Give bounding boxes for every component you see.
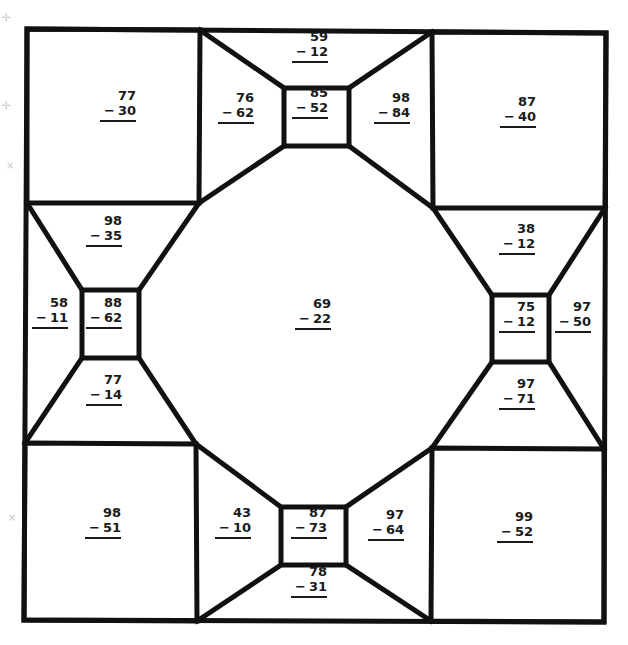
minuend: 59	[292, 29, 328, 44]
subtraction-problem-bottom-outer-trap: 78−31	[279, 564, 339, 598]
minus-sign: −	[90, 228, 101, 243]
minuend: 98	[85, 505, 121, 520]
left-bowtie-line	[139, 203, 199, 290]
subtrahend-value: 12	[310, 44, 328, 59]
left-bowtie-line	[139, 358, 196, 444]
margin-mark: ×	[6, 160, 14, 171]
minus-sign: −	[36, 310, 47, 325]
subtrahend: −52	[292, 100, 328, 119]
minuend: 97	[555, 299, 591, 314]
minus-sign: −	[501, 524, 512, 539]
subtrahend: −35	[86, 228, 122, 247]
minus-sign: −	[222, 105, 233, 120]
subtrahend: −62	[218, 105, 254, 124]
minus-sign: −	[503, 314, 514, 329]
subtrahend: −10	[215, 520, 251, 539]
subtrahend: −84	[374, 105, 410, 124]
minus-sign: −	[378, 105, 389, 120]
subtrahend-value: 62	[104, 310, 122, 325]
minus-sign: −	[372, 522, 383, 537]
subtraction-problem-left-center-box: 88−62	[74, 295, 134, 329]
subtraction-problem-left-top-trap: 98−35	[74, 213, 134, 247]
minus-sign: −	[296, 44, 307, 59]
bottom-bowtie-line	[196, 444, 281, 507]
minus-sign: −	[89, 520, 100, 535]
top-bowtie-line	[200, 30, 284, 88]
subtrahend-value: 84	[392, 105, 410, 120]
minus-sign: −	[299, 311, 310, 326]
margin-mark: ✢	[2, 12, 10, 23]
subtrahend-value: 52	[515, 524, 533, 539]
minuend: 78	[291, 564, 327, 579]
subtrahend-value: 30	[118, 103, 136, 118]
subtrahend-value: 62	[236, 105, 254, 120]
subtrahend-value: 31	[309, 579, 327, 594]
minus-sign: −	[503, 236, 514, 251]
minus-sign: −	[504, 109, 515, 124]
subtrahend: −40	[500, 109, 536, 128]
subtrahend: −62	[86, 310, 122, 329]
subtrahend-value: 40	[518, 109, 536, 124]
right-bowtie-line	[432, 362, 492, 448]
minus-sign: −	[90, 387, 101, 402]
bottom-bowtie-line	[346, 448, 432, 507]
right-bowtie-line	[549, 208, 605, 295]
margin-mark: ✢	[2, 100, 10, 111]
minuend: 98	[374, 90, 410, 105]
minuend: 87	[291, 505, 327, 520]
minus-sign: −	[295, 520, 306, 535]
subtrahend: −12	[499, 236, 535, 255]
subtraction-problem-bottom-left-trap: 43−10	[203, 505, 263, 539]
subtrahend: −14	[86, 387, 122, 406]
subtrahend: −50	[555, 314, 591, 333]
subtrahend-value: 12	[517, 314, 535, 329]
minuend: 85	[292, 85, 328, 100]
subtrahend: −30	[100, 103, 136, 122]
minuend: 58	[32, 295, 68, 310]
subtraction-problem-left-outer-trap: 58−11	[20, 295, 80, 329]
subtraction-problem-center-octagon: 69−22	[283, 296, 343, 330]
minuend: 69	[295, 296, 331, 311]
subtraction-problem-bottom-right-trap: 97−64	[356, 507, 416, 541]
minuend: 77	[86, 372, 122, 387]
minus-sign: −	[104, 103, 115, 118]
subtraction-problem-top-right-trap: 98−84	[362, 90, 422, 124]
subtrahend-value: 73	[309, 520, 327, 535]
subtrahend: −22	[295, 311, 331, 330]
minuend: 43	[215, 505, 251, 520]
top-bowtie-line	[349, 146, 433, 208]
right-bowtie-line	[433, 208, 492, 295]
subtrahend-value: 10	[233, 520, 251, 535]
subtraction-problem-bottom-center-box: 87−73	[279, 505, 339, 539]
subtrahend-value: 11	[50, 310, 68, 325]
minuend: 38	[499, 221, 535, 236]
minus-sign: −	[559, 314, 570, 329]
subtraction-problem-right-bottom-trap: 97−71	[487, 376, 547, 410]
subtrahend: −52	[497, 524, 533, 543]
margin-mark: ×	[8, 512, 16, 523]
minus-sign: −	[219, 520, 230, 535]
minuend: 99	[497, 509, 533, 524]
subtrahend-value: 50	[573, 314, 591, 329]
subtrahend-value: 22	[313, 311, 331, 326]
subtraction-problem-tr-square: 87−40	[488, 94, 548, 128]
subtrahend: −31	[291, 579, 327, 598]
top-bowtie-line	[349, 32, 432, 88]
minus-sign: −	[296, 100, 307, 115]
subtraction-problem-br-square: 99−52	[485, 509, 545, 543]
subtrahend-value: 51	[103, 520, 121, 535]
subtraction-problem-top-outer-trap: 59−12	[280, 29, 340, 63]
minus-sign: −	[90, 310, 101, 325]
minuend: 97	[499, 376, 535, 391]
bottom-bowtie-line	[197, 565, 281, 621]
subtrahend-value: 35	[104, 228, 122, 243]
subtraction-problem-tl-square: 77−30	[88, 88, 148, 122]
subtrahend-value: 14	[104, 387, 122, 402]
subtrahend: −73	[291, 520, 327, 539]
right-bowtie-line	[549, 362, 604, 449]
subtrahend-value: 71	[517, 391, 535, 406]
subtraction-problem-bl-square: 98−51	[73, 505, 133, 539]
subtraction-problem-top-center-box: 85−52	[280, 85, 340, 119]
minuend: 88	[86, 295, 122, 310]
minuend: 87	[500, 94, 536, 109]
